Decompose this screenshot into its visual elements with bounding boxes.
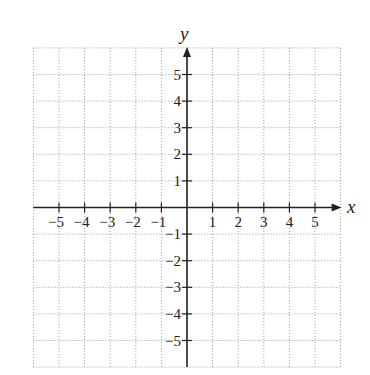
x-tick-label: 5 [311, 214, 319, 230]
x-tick-label: −5 [48, 214, 64, 230]
y-tick-label: −2 [165, 253, 181, 269]
x-tick-label: −4 [74, 214, 90, 230]
y-tick-label: 2 [174, 146, 182, 162]
y-tick-label: −1 [165, 226, 181, 242]
x-tick-label: 3 [260, 214, 268, 230]
y-tick-label: 3 [174, 120, 182, 136]
y-tick-label: −3 [165, 279, 181, 295]
y-tick-label: −5 [165, 333, 181, 349]
y-tick-label: −4 [165, 306, 181, 322]
x-tick-label: 2 [234, 214, 242, 230]
y-tick-label: 4 [174, 93, 182, 109]
y-tick-label: 1 [174, 173, 182, 189]
axes [33, 47, 341, 367]
x-tick-label: 1 [209, 214, 217, 230]
x-tick-label: −3 [99, 214, 115, 230]
y-axis-label: y [178, 23, 189, 44]
y-tick-label: 5 [174, 67, 182, 83]
x-tick-label: −1 [150, 214, 166, 230]
coordinate-plane: −5−4−3−2−11234554321−1−2−3−4−5 x y [0, 0, 370, 375]
x-axis-label: x [346, 196, 356, 217]
x-tick-label: 4 [286, 214, 294, 230]
x-tick-label: −2 [125, 214, 141, 230]
